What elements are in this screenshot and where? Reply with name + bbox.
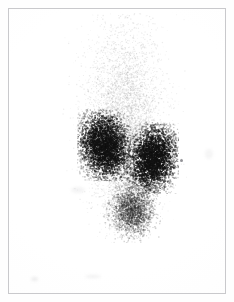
scintigram-page: Renal scintigraphy Posterior Left kidney… [0, 0, 234, 302]
film-smudge-mid-left [71, 187, 85, 193]
scan-film-frame: Renal scintigraphy Posterior Left kidney… [8, 8, 226, 294]
film-smudge-bottom-left [31, 277, 38, 281]
film-base [9, 9, 225, 293]
film-smudge-right-edge [205, 149, 213, 159]
reference-marker-dot [180, 159, 183, 162]
film-smudge-bottom-mid [85, 275, 101, 278]
